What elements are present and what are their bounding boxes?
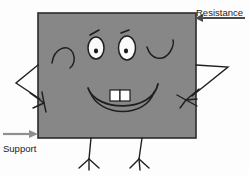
- left-eye: [88, 37, 104, 59]
- support-arrow-head-icon: [29, 130, 38, 138]
- left-leg: [79, 138, 99, 170]
- tooth-right: [120, 90, 130, 101]
- diagram-canvas: Resistance Support: [0, 0, 249, 175]
- support-annotation: Support: [3, 130, 38, 154]
- resistance-label: Resistance: [196, 7, 243, 18]
- right-leg: [130, 138, 149, 170]
- gray-rectangle-body: [38, 13, 196, 138]
- left-eye-pupil: [94, 49, 98, 54]
- resistance-annotation: Resistance: [195, 7, 245, 22]
- tooth-left: [110, 90, 120, 101]
- support-label: Support: [3, 143, 37, 154]
- right-eye: [119, 36, 136, 60]
- right-eye-pupil: [124, 49, 128, 54]
- support-resistance-illustration: Resistance Support: [0, 0, 249, 175]
